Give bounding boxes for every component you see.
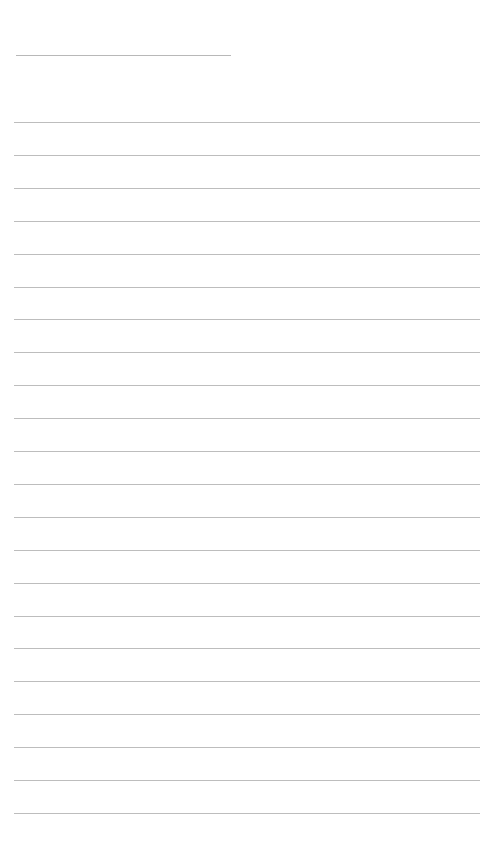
ruled-line	[14, 813, 480, 814]
ruled-line	[14, 287, 480, 288]
ruled-line	[14, 254, 480, 255]
ruled-line	[14, 188, 480, 189]
ruled-line	[14, 517, 480, 518]
ruled-line	[14, 747, 480, 748]
ruled-line	[14, 780, 480, 781]
ruled-line	[14, 484, 480, 485]
ruled-line	[14, 681, 480, 682]
ruled-line	[14, 319, 480, 320]
ruled-line	[14, 583, 480, 584]
ruled-line	[14, 616, 480, 617]
header-line	[16, 55, 231, 56]
ruled-line	[14, 648, 480, 649]
ruled-line	[14, 550, 480, 551]
ruled-line	[14, 122, 480, 123]
ruled-line	[14, 418, 480, 419]
ruled-line	[14, 385, 480, 386]
ruled-line	[14, 155, 480, 156]
ruled-line	[14, 451, 480, 452]
ruled-line	[14, 714, 480, 715]
ruled-line	[14, 221, 480, 222]
ruled-line	[14, 352, 480, 353]
